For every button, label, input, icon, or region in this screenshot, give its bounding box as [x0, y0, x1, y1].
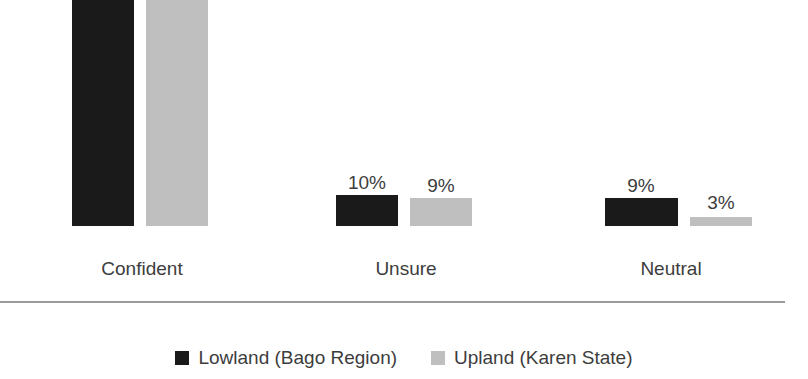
- chart-legend: Lowland (Bago Region) Upland (Karen Stat…: [0, 348, 808, 368]
- category-axis-line: [0, 301, 785, 303]
- category-label-unsure: Unsure: [306, 259, 506, 279]
- bar-confident-lowland[interactable]: [72, 0, 134, 226]
- category-label-neutral: Neutral: [571, 259, 771, 279]
- bar-value-label: 9%: [396, 176, 486, 195]
- legend-item-lowland[interactable]: Lowland (Bago Region): [175, 348, 397, 368]
- bar-neutral-lowland[interactable]: [605, 198, 678, 226]
- bar-group-confident: 81% 89% Confident: [72, 0, 212, 226]
- legend-swatch-icon: [431, 351, 445, 365]
- bar-unsure-upland[interactable]: [410, 198, 472, 226]
- bar-confident-upland[interactable]: [146, 0, 208, 226]
- bar-group-neutral: 9% 3% Neutral: [605, 0, 745, 226]
- bar-value-label: 3%: [676, 193, 766, 212]
- legend-swatch-icon: [175, 351, 189, 365]
- bar-value-label: 9%: [596, 176, 686, 195]
- category-label-confident: Confident: [42, 259, 242, 279]
- legend-label: Upland (Karen State): [454, 348, 633, 368]
- legend-label: Lowland (Bago Region): [198, 348, 397, 368]
- bar-group-unsure: 10% 9% Unsure: [336, 0, 476, 226]
- bar-unsure-lowland[interactable]: [336, 195, 398, 226]
- legend-item-upland[interactable]: Upland (Karen State): [431, 348, 633, 368]
- plot-area: 81% 89% Confident 10% 9%: [0, 0, 808, 303]
- bar-neutral-upland[interactable]: [690, 217, 752, 226]
- bar-chart: 81% 89% Confident 10% 9%: [0, 0, 808, 379]
